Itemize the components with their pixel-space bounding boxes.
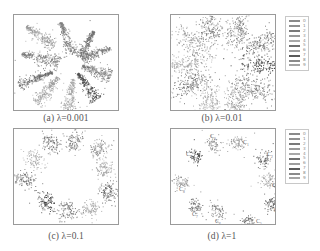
centroid-marker [72,138,76,142]
cluster-6 [53,199,84,224]
centroid-marker [235,140,238,143]
scatter-plot-b [171,15,275,110]
panel-caption-c: (c) λ=0.1 [26,231,106,241]
centroid-marker [68,95,72,99]
legend-swatch [289,148,300,150]
legend-swatch [289,133,300,135]
panel-caption-d: (d) λ=1 [182,231,262,241]
legend-swatch [289,168,300,170]
centroid-marker [207,100,211,104]
legend-swatch [289,20,300,22]
cluster-label: C4 [274,207,275,215]
centroid-marker [87,85,91,89]
cluster-9: C9 [186,139,203,166]
centroid-marker [234,99,238,103]
legend-swatch [289,173,300,175]
centroid-marker [179,179,182,182]
legend-swatch [289,158,300,160]
cluster-5 [77,73,104,104]
legend-swatch [289,25,300,27]
centroid-marker [246,220,249,223]
legend-swatch [289,35,300,37]
cluster-7 [25,190,56,215]
centroid-marker [82,42,86,46]
cluster-0: C0 [202,130,224,153]
cluster-7 [32,73,61,107]
cluster-8 [14,58,61,94]
cluster-3: C3 [251,166,275,194]
legend-entry: 9 [289,63,306,68]
centroid-marker [211,142,214,145]
centroid-marker [46,89,50,93]
cluster-label: C6 [215,218,221,224]
centroid-marker [23,177,27,181]
scatter-panel-a [13,14,119,111]
scatter-plot-d: C0C1C2C3C4C5C6C7C8C9 [171,129,275,224]
cluster-label: C7 [192,211,198,219]
centroid-marker [102,168,106,172]
centroid-marker [261,157,264,160]
cluster-0 [25,23,63,58]
legend-swatch [289,177,300,179]
cluster-1 [63,129,92,156]
cluster-2 [242,22,275,58]
cluster-9 [15,51,61,72]
legend-label: 9 [303,63,306,68]
scatter-plot-a [14,15,118,110]
centroid-marker [215,209,218,212]
cluster-2 [80,135,115,159]
cluster-4: C4 [264,186,275,214]
centroid-marker [106,189,110,193]
legend-swatch [289,138,300,140]
centroid-marker [194,154,197,157]
panel-caption-b: (b) λ=0.01 [182,113,262,123]
cluster-label: C5 [256,218,262,224]
legend-b: 0123456789 [285,16,309,71]
cluster-label: C0 [210,133,216,141]
cluster-7: C7 [188,191,206,220]
legend-swatch [289,163,300,165]
scatter-panel-b [170,14,276,111]
centroid-marker [98,51,102,55]
centroid-marker [261,40,265,44]
centroid-marker [234,29,238,33]
centroid-marker [65,209,69,213]
centroid-marker [30,76,34,80]
centroid-marker [97,68,101,72]
scatter-panel-c [13,128,119,225]
legend-swatch [289,55,300,57]
centroid-marker [269,202,272,205]
legend-d: 0123456789 [285,129,309,184]
centroid-marker [264,64,268,68]
cluster-6: C6 [208,200,235,225]
legend-swatch [289,143,300,145]
cluster-label: C1 [243,139,249,147]
scatter-plot-c [14,129,118,224]
cluster-5 [77,199,112,223]
cluster-5: C5 [240,211,268,225]
cluster-8 [14,167,46,189]
legend-label: 9 [303,176,306,181]
centroid-marker [183,62,187,66]
cluster-label: C8 [179,186,185,194]
cluster-label: C3 [272,182,275,190]
centroid-marker [88,206,92,210]
centroid-marker [38,34,42,38]
centroid-marker [34,53,38,57]
centroid-marker [192,43,196,47]
centroid-marker [32,157,36,161]
legend-swatch [289,50,300,52]
centroid-marker [44,198,48,202]
legend-swatch [289,64,300,66]
legend-swatch [289,30,300,32]
centroid-marker [192,204,195,207]
panel-caption-a: (a) λ=0.001 [26,113,106,123]
centroid-marker [96,147,100,151]
legend-swatch [289,153,300,155]
centroid-marker [65,37,69,41]
legend-swatch [289,40,300,42]
cluster-4 [98,180,118,206]
centroid-marker [209,25,213,29]
cluster-2: C2 [253,143,275,170]
cluster-8: C8 [172,175,195,194]
